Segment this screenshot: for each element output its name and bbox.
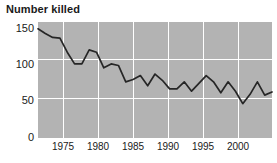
series-line-chart — [38, 21, 272, 138]
x-tick-label-1975: 1975 — [46, 141, 80, 152]
x-tick-label-1985: 1985 — [116, 141, 150, 152]
x-tick-label-2000: 2000 — [221, 141, 255, 152]
y-tick-label-100: 100 — [2, 59, 34, 70]
x-tick-label-1995: 1995 — [186, 141, 220, 152]
chart-container: Number killed 150 100 50 0 1975 1980 198… — [0, 0, 277, 163]
y-tick-label-150: 150 — [2, 23, 34, 34]
y-axis-labels: 150 100 50 0 — [0, 0, 34, 163]
x-tick-label-1990: 1990 — [151, 141, 185, 152]
y-tick-label-0: 0 — [2, 132, 34, 143]
x-tick-label-1980: 1980 — [81, 141, 115, 152]
y-tick-label-50: 50 — [2, 95, 34, 106]
series-path-number-killed — [38, 29, 272, 104]
plot-area — [38, 21, 272, 138]
